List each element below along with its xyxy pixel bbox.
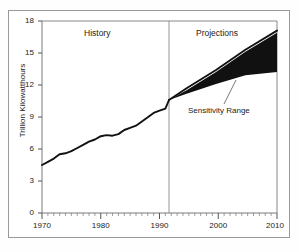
projections-annotation: Projections [196,28,238,38]
y-tick-label-3: 3 [18,177,34,185]
y-tick-label-0: 0 [18,209,34,217]
x-tick-label-2000: 2000 [203,222,233,230]
history-annotation: History [84,28,110,38]
x-tick-label-1980: 1980 [86,222,116,230]
y-tick-label-18: 18 [18,17,34,25]
sensitivity-range-leader-line [224,80,236,104]
chart-plot-area [0,0,299,252]
chart-figure: 18 15 12 9 6 3 0 Trillion Kilowatthours … [0,0,299,252]
y-axis-label: Trillion Kilowatthours [18,41,27,161]
sensitivity-range-annotation: Sensitivity Range [188,106,250,115]
x-tick-label-1990: 1990 [145,222,175,230]
y-major-ticks [38,21,42,213]
axis-lines [42,21,277,213]
x-tick-label-2010: 2010 [260,222,290,230]
history-line [42,100,169,165]
x-tick-label-1970: 1970 [27,222,57,230]
